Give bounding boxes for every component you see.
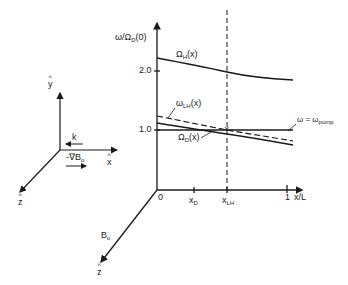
plot-z-label: z: [97, 268, 102, 277]
xtick-label-xLH: xLH: [222, 196, 234, 206]
left-x-label: x: [107, 158, 112, 167]
plot-z-axis: [101, 190, 157, 262]
origin-label: 0: [158, 193, 163, 202]
k-label: k: [72, 133, 77, 142]
left-y-label: y: [48, 80, 53, 89]
crossing-marker: ×: [224, 125, 229, 134]
z-axis-arrow: [20, 150, 60, 192]
label-omega-pump: ω = ωpump: [297, 116, 334, 125]
B0-label: Bo: [101, 231, 110, 241]
curve-OmegaH: [157, 58, 293, 80]
y-axis-label: ω/ΩD(0): [115, 33, 147, 43]
label-OmegaD: ΩD(x): [178, 133, 200, 143]
xtick-label-1: 1: [285, 193, 290, 202]
left-coordinate-axes: [20, 93, 117, 192]
diagram-lines: [0, 0, 348, 285]
plot-axes: [101, 23, 302, 262]
gradB-label: -∇Bo: [66, 153, 84, 163]
ytick-label-2: 2.0: [139, 66, 152, 75]
left-z-label: z: [18, 198, 23, 207]
label-omegaLH: ωLH(x): [176, 99, 201, 109]
ytick-label-1: 1.0: [139, 125, 152, 134]
label-OmegaH: ΩH(x): [176, 50, 198, 60]
xtick-label-xD: xD: [189, 196, 198, 206]
physics-diagram: y x z k -∇Bo ω/ΩD(0) 2.0 1.0 0 xD xLH 1 …: [0, 0, 348, 285]
x-axis-label: x/L: [294, 193, 306, 202]
